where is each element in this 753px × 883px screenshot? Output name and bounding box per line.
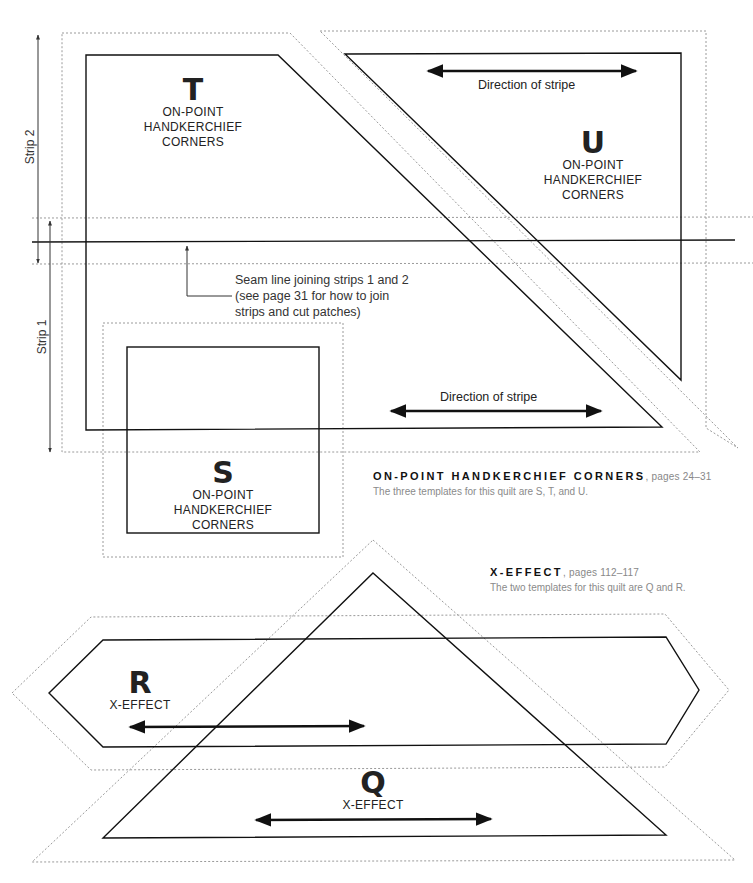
direction-arrow-r	[130, 726, 364, 727]
template-s-label: S ON-POINT HANDKERCHIEF CORNERS	[158, 458, 288, 533]
template-r-letter: R	[95, 668, 185, 698]
caption-xeffect-title: X-EFFECT	[490, 566, 563, 578]
seam-guide-lower	[32, 263, 753, 264]
template-u-label: U ON-POINT HANDKERCHIEF CORNERS	[528, 128, 658, 203]
template-q-letter: Q	[328, 768, 418, 798]
template-s-letter: S	[158, 458, 288, 488]
caption-xeffect: X-EFFECT, pages 112–117 The two template…	[490, 562, 686, 593]
template-t-letter: T	[128, 75, 258, 105]
seam-pointer-arrow	[187, 246, 232, 296]
caption-handkerchief-desc: The three templates for this quilt are S…	[373, 486, 712, 497]
direction-label-top: Direction of stripe	[478, 78, 575, 92]
template-u-letter: U	[528, 128, 658, 158]
template-r-label: R X-EFFECT	[95, 668, 185, 713]
seam-guide-upper	[32, 217, 753, 218]
caption-handkerchief-title: ON-POINT HANDKERCHIEF CORNERS	[373, 470, 646, 482]
strip-2-label: Strip 2	[23, 127, 37, 167]
template-t-label: T ON-POINT HANDKERCHIEF CORNERS	[128, 75, 258, 150]
caption-handkerchief: ON-POINT HANDKERCHIEF CORNERS, pages 24–…	[373, 466, 712, 497]
template-q-label: Q X-EFFECT	[328, 768, 418, 813]
seam-line	[32, 240, 735, 242]
caption-handkerchief-pages: , pages 24–31	[646, 471, 712, 482]
seam-line-note: Seam line joining strips 1 and 2 (see pa…	[235, 272, 409, 320]
direction-arrow-q	[256, 819, 491, 820]
template-u-cut-line	[345, 53, 681, 380]
strip-1-label: Strip 1	[35, 317, 49, 357]
direction-label-bottom: Direction of stripe	[440, 390, 537, 404]
caption-xeffect-pages: , pages 112–117	[563, 567, 639, 578]
caption-xeffect-desc: The two templates for this quilt are Q a…	[490, 582, 686, 593]
